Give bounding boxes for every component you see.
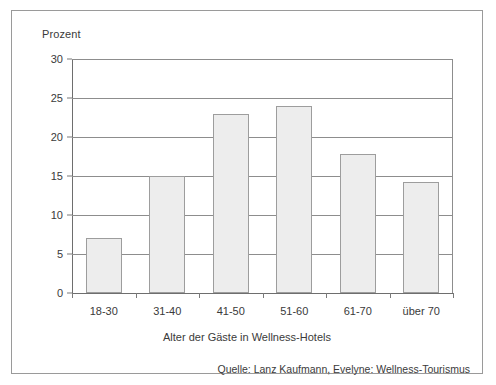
x-tick-mark [199,293,200,298]
x-tick-label: 31-40 [153,305,181,317]
gridline [72,98,453,99]
y-tick-mark [67,215,72,216]
y-tick-label: 0 [57,287,63,299]
x-axis-title: Alter der Gäste in Wellness-Hotels [12,331,482,343]
y-tick-mark [67,59,72,60]
x-tick-label: 61-70 [344,305,372,317]
gridline [72,215,453,216]
chart-figure: Prozent 051015202530 18-3031-4041-5051-6… [11,10,483,374]
y-tick-label: 30 [51,53,63,65]
bar [149,176,185,293]
bar [276,106,312,293]
x-tick-mark [390,293,391,298]
x-tick-mark [453,293,454,298]
y-tick-mark [67,176,72,177]
y-axis-title: Prozent [42,28,81,40]
x-tick-label: 41-50 [217,305,245,317]
gridline [72,176,453,177]
x-tick-mark [136,293,137,298]
y-tick-label: 25 [51,92,63,104]
bar [340,154,376,293]
gridline [72,59,453,60]
y-tick-label: 5 [57,248,63,260]
x-tick-label: 18-30 [90,305,118,317]
plot-area: 051015202530 18-3031-4041-5051-6061-70üb… [72,59,453,293]
gridline [72,137,453,138]
y-tick-label: 15 [51,170,63,182]
y-tick-label: 20 [51,131,63,143]
x-tick-mark [326,293,327,298]
x-tick-label: 51-60 [280,305,308,317]
bar [86,238,122,293]
x-tick-mark [263,293,264,298]
x-tick-mark [72,293,73,298]
y-tick-label: 10 [51,209,63,221]
y-tick-mark [67,137,72,138]
gridline [72,254,453,255]
bar [213,114,249,293]
y-tick-mark [67,98,72,99]
bar [403,182,439,293]
y-tick-mark [67,254,72,255]
source-note: Quelle: Lanz Kaufmann, Evelyne: Wellness… [217,363,470,375]
x-tick-label: über 70 [403,305,440,317]
